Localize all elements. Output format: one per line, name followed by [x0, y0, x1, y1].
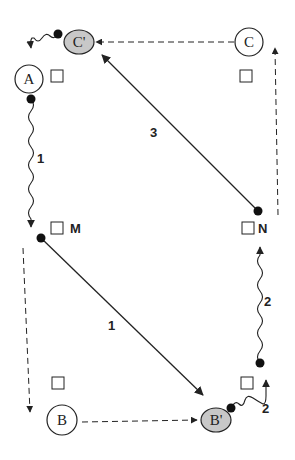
- node-A: A: [15, 65, 43, 93]
- node-B-label: B: [57, 412, 67, 428]
- slot-A: [51, 70, 63, 82]
- source-dot-A: [27, 95, 36, 104]
- node-C: C: [235, 28, 263, 56]
- edge-label-2-long: 2: [264, 294, 271, 309]
- node-Cprime: C': [64, 30, 94, 54]
- source-dot-Cprime: [54, 30, 63, 39]
- node-Bprime: B': [201, 408, 231, 432]
- slot-N-label: N: [258, 221, 267, 236]
- edge-right-dashed-up: [275, 48, 278, 215]
- slot-C: [240, 70, 252, 82]
- edge-left-dashed-down: [23, 248, 30, 412]
- source-dot-lower-right: [256, 359, 265, 368]
- slot-M: [51, 222, 63, 234]
- edge-M-to-Bprime: 1: [37, 234, 204, 396]
- edge-Cprime-to-A-wavy: [31, 30, 63, 49]
- slot-N: [242, 222, 254, 234]
- edge-N-to-Cprime: 3: [102, 55, 263, 216]
- slot-B: [52, 377, 64, 389]
- source-dot-N: [254, 207, 263, 216]
- edge-to-N-wavy-long: 2: [256, 247, 272, 368]
- edge-label-3: 3: [150, 125, 157, 140]
- edge-A-to-M-wavy: 1: [27, 95, 45, 228]
- edge-B-to-Bprime-dashed: [82, 420, 197, 422]
- node-B: B: [47, 405, 77, 435]
- edge-label-1-wavy: 1: [37, 151, 44, 166]
- source-dot-M: [37, 234, 46, 243]
- node-Bprime-label: B': [210, 412, 223, 428]
- diagram-canvas: 3 1 1 2 2 M N C' C: [0, 0, 295, 460]
- node-C-label: C: [244, 34, 254, 50]
- edge-label-1-diagonal: 1: [108, 318, 115, 333]
- slot-Bprime: [241, 377, 253, 389]
- node-Cprime-label: C': [73, 34, 86, 50]
- slot-M-label: M: [70, 221, 81, 236]
- node-A-label: A: [24, 71, 35, 87]
- edge-label-2-short: 2: [262, 401, 269, 416]
- source-dot-Bprime: [227, 404, 236, 413]
